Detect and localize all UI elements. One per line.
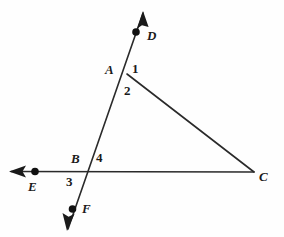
- point-dot-e: [31, 168, 39, 176]
- point-label-d: D: [147, 29, 156, 42]
- geometry-figure: D A B C E F 1 2 3 4: [0, 0, 284, 237]
- angle-label-4: 4: [96, 151, 103, 164]
- arrowhead-d-icon: [137, 11, 148, 29]
- angle-label-3: 3: [66, 175, 73, 188]
- point-label-c: C: [259, 170, 268, 183]
- line-EC: [11, 172, 254, 173]
- point-label-e: E: [28, 180, 37, 193]
- segment-AC: [127, 74, 254, 172]
- geometry-canvas: [0, 0, 284, 237]
- angle-label-2: 2: [124, 84, 131, 97]
- point-label-b: B: [71, 152, 80, 165]
- point-label-f: F: [82, 202, 91, 215]
- point-dot-f: [69, 205, 77, 213]
- angle-label-1: 1: [132, 62, 139, 75]
- point-label-a: A: [105, 63, 114, 76]
- line-DF: [68, 13, 143, 229]
- point-dot-d: [132, 28, 140, 36]
